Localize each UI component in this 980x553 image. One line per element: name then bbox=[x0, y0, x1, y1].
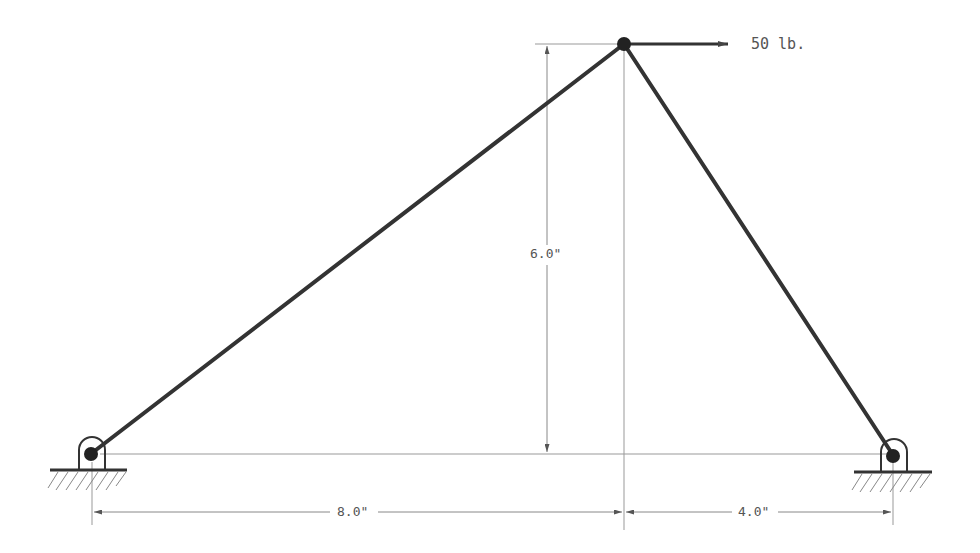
left-span-label: 8.0" bbox=[334, 505, 371, 519]
load-label: 50 lb. bbox=[748, 37, 808, 51]
left-pin-support bbox=[48, 437, 127, 490]
apex-joint bbox=[617, 37, 631, 51]
truss-diagram bbox=[0, 0, 980, 553]
extension-lines bbox=[92, 44, 895, 530]
right-member bbox=[624, 44, 893, 455]
right-span-label: 4.0" bbox=[735, 505, 772, 519]
height-dimension-label: 6.0" bbox=[527, 247, 564, 261]
truss-members bbox=[92, 44, 893, 455]
right-pin-support bbox=[852, 439, 932, 492]
